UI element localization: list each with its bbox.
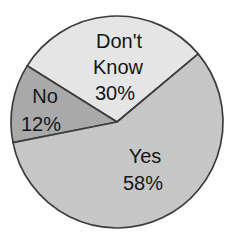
slice-label-yes-line1: 58% — [123, 172, 163, 194]
slice-label-yes-line0: Yes — [129, 145, 162, 167]
slice-label-no-line0: No — [32, 85, 58, 107]
slice-label-dont-know-line2: 30% — [95, 82, 135, 104]
slice-label-no-line1: 12% — [21, 113, 61, 135]
slice-label-dont-know-line0: Don't — [96, 30, 143, 52]
pie-chart: Don'tKnow30%No12%Yes58% — [0, 0, 234, 248]
pie-chart-figure: Don'tKnow30%No12%Yes58% — [0, 0, 234, 248]
slice-label-dont-know-line1: Know — [93, 56, 144, 78]
